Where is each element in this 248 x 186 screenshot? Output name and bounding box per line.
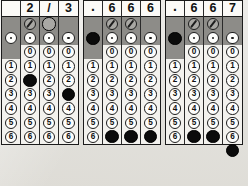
grid-1-column-1-digit-6-cell[interactable]: 6 bbox=[2, 130, 20, 144]
grid-2-column-4-digit-6-bubble[interactable]: 6 bbox=[144, 130, 157, 143]
grid-1-column-2-digit-6-cell[interactable]: 6 bbox=[21, 130, 39, 144]
grid-1-column-2-digit-3-cell[interactable]: 3 bbox=[21, 87, 39, 101]
grid-2-column-1-digit-3-bubble[interactable]: 3 bbox=[87, 88, 99, 100]
grid-1-column-4-digit-1-bubble[interactable]: 1 bbox=[62, 60, 74, 72]
grid-1-column-3-digit-2-bubble[interactable]: 2 bbox=[43, 74, 55, 86]
grid-1-column-2-digit-6-bubble[interactable]: 6 bbox=[24, 131, 36, 143]
grid-1-column-3-digit-1-cell[interactable]: 1 bbox=[40, 59, 58, 73]
grid-3-column-2-digit-0-cell[interactable]: 0 bbox=[185, 45, 203, 59]
grid-1-column-2-digit-4-bubble[interactable]: 4 bbox=[24, 102, 36, 114]
grid-1-column-2-digit-5-cell[interactable]: 5 bbox=[21, 116, 39, 130]
grid-3-column-4-digit-2-bubble[interactable]: 2 bbox=[226, 74, 238, 86]
grid-3-column-4-digit-3-cell[interactable]: 3 bbox=[223, 87, 242, 101]
grid-1-column-2-decimal-bubble[interactable] bbox=[24, 32, 36, 44]
grid-2-column-4-digit-1-cell[interactable]: 1 bbox=[141, 59, 160, 73]
grid-3-column-1-digit-5-cell[interactable]: 5 bbox=[166, 116, 184, 130]
grid-1-column-2-digit-4-cell[interactable]: 4 bbox=[21, 102, 39, 116]
grid-2-column-1-digit-1-bubble[interactable]: 1 bbox=[87, 60, 99, 72]
grid-3-column-4-digit-5-bubble[interactable]: 5 bbox=[226, 117, 238, 129]
grid-3-column-1-digit-4-bubble[interactable]: 4 bbox=[169, 102, 181, 114]
grid-1-column-3-slash-cell[interactable] bbox=[40, 17, 58, 31]
grid-1-column-3-digit-1-bubble[interactable]: 1 bbox=[43, 60, 55, 72]
grid-3-column-2-slash-cell[interactable] bbox=[185, 17, 203, 31]
grid-2-column-2-digit-6-bubble[interactable]: 6 bbox=[105, 130, 118, 143]
grid-2-column-4-digit-3-bubble[interactable]: 3 bbox=[144, 88, 156, 100]
grid-2-column-3-digit-2-bubble[interactable]: 2 bbox=[125, 74, 137, 86]
grid-3-column-4-digit-2-cell[interactable]: 2 bbox=[223, 73, 242, 87]
grid-2-column-4-digit-0-bubble[interactable]: 0 bbox=[144, 46, 156, 58]
grid-2-column-4-digit-6-cell[interactable]: 6 bbox=[141, 130, 160, 144]
grid-3-column-1-digit-4-cell[interactable]: 4 bbox=[166, 102, 184, 116]
grid-1-column-1-digit-3-bubble[interactable]: 3 bbox=[5, 88, 17, 100]
grid-1-column-1-digit-5-cell[interactable]: 5 bbox=[2, 116, 20, 130]
grid-3-column-4-written-answer[interactable]: 7 bbox=[223, 1, 242, 17]
grid-2-column-4-digit-3-cell[interactable]: 3 bbox=[141, 87, 160, 101]
grid-2-column-4-digit-4-bubble[interactable]: 4 bbox=[144, 102, 156, 114]
grid-2-column-3-decimal-bubble[interactable] bbox=[125, 32, 137, 44]
grid-2-column-1-digit-3-cell[interactable]: 3 bbox=[84, 87, 102, 101]
grid-3-column-2-slash-bubble[interactable] bbox=[188, 18, 200, 30]
grid-1-column-1-digit-6-bubble[interactable]: 6 bbox=[5, 131, 17, 143]
grid-3-column-2-written-answer[interactable]: 6 bbox=[185, 1, 203, 17]
grid-3-column-2-digit-4-cell[interactable]: 4 bbox=[185, 102, 203, 116]
grid-1-column-4-digit-3-cell[interactable]: 3 bbox=[59, 87, 78, 101]
grid-2-column-1-decimal-bubble[interactable] bbox=[86, 32, 99, 45]
grid-3-column-2-digit-6-bubble[interactable]: 6 bbox=[187, 130, 200, 143]
grid-2-column-1-decimal-cell[interactable] bbox=[84, 31, 102, 45]
grid-3-column-4-digit-3-bubble[interactable]: 3 bbox=[226, 88, 238, 100]
grid-2-column-4-decimal-bubble[interactable] bbox=[144, 32, 156, 44]
grid-1-column-3-decimal-cell[interactable] bbox=[40, 31, 58, 45]
grid-1-column-3-digit-4-bubble[interactable]: 4 bbox=[43, 102, 55, 114]
grid-3-column-2-decimal-cell[interactable] bbox=[185, 31, 203, 45]
grid-2-column-3-written-answer[interactable]: 6 bbox=[122, 1, 140, 17]
grid-1-column-1-digit-3-cell[interactable]: 3 bbox=[2, 87, 20, 101]
grid-1-column-4-digit-5-bubble[interactable]: 5 bbox=[62, 117, 74, 129]
grid-2-column-3-digit-6-bubble[interactable]: 6 bbox=[124, 130, 137, 143]
grid-2-column-3-digit-5-cell[interactable]: 5 bbox=[122, 116, 140, 130]
grid-2-column-3-digit-0-bubble[interactable]: 0 bbox=[125, 46, 137, 58]
grid-1-column-3-slash-bubble[interactable] bbox=[42, 17, 55, 30]
grid-2-column-1-digit-1-cell[interactable]: 1 bbox=[84, 59, 102, 73]
grid-1-column-2-slash-cell[interactable] bbox=[21, 17, 39, 31]
grid-1-column-2-digit-5-bubble[interactable]: 5 bbox=[24, 117, 36, 129]
grid-1-column-1-digit-4-bubble[interactable]: 4 bbox=[5, 102, 17, 114]
grid-2-column-2-written-answer[interactable]: 6 bbox=[103, 1, 121, 17]
grid-1-column-4-digit-5-cell[interactable]: 5 bbox=[59, 116, 78, 130]
grid-3-column-3-digit-3-bubble[interactable]: 3 bbox=[207, 88, 219, 100]
grid-2-column-4-digit-4-cell[interactable]: 4 bbox=[141, 102, 160, 116]
grid-2-column-4-digit-0-cell[interactable]: 0 bbox=[141, 45, 160, 59]
grid-1-column-3-digit-2-cell[interactable]: 2 bbox=[40, 73, 58, 87]
grid-2-column-2-digit-2-bubble[interactable]: 2 bbox=[106, 74, 118, 86]
grid-3-column-2-digit-3-bubble[interactable]: 3 bbox=[188, 88, 200, 100]
grid-3-column-4-overhang-cell[interactable] bbox=[223, 144, 242, 158]
grid-3-column-3-digit-2-cell[interactable]: 2 bbox=[204, 73, 222, 87]
grid-3-column-4-digit-0-cell[interactable]: 0 bbox=[223, 45, 242, 59]
grid-3-column-3-digit-5-cell[interactable]: 5 bbox=[204, 116, 222, 130]
grid-3-column-2-digit-5-bubble[interactable]: 5 bbox=[188, 117, 200, 129]
grid-3-column-2-decimal-bubble[interactable] bbox=[188, 32, 200, 44]
grid-2-column-1-digit-4-bubble[interactable]: 4 bbox=[87, 102, 99, 114]
grid-1-column-1-digit-5-bubble[interactable]: 5 bbox=[5, 117, 17, 129]
grid-3-column-4-decimal-bubble[interactable] bbox=[226, 32, 238, 44]
grid-3-column-2-digit-1-cell[interactable]: 1 bbox=[185, 59, 203, 73]
grid-3-column-1-written-answer[interactable]: . bbox=[166, 1, 184, 17]
grid-2-column-2-digit-2-cell[interactable]: 2 bbox=[103, 73, 121, 87]
grid-2-column-3-digit-4-bubble[interactable]: 4 bbox=[125, 102, 137, 114]
grid-3-column-1-digit-2-cell[interactable]: 2 bbox=[166, 73, 184, 87]
grid-1-column-4-digit-1-cell[interactable]: 1 bbox=[59, 59, 78, 73]
grid-3-column-4-digit-4-cell[interactable]: 4 bbox=[223, 102, 242, 116]
grid-3-column-3-slash-cell[interactable] bbox=[204, 17, 222, 31]
grid-3-column-3-digit-0-bubble[interactable]: 0 bbox=[207, 46, 219, 58]
grid-1-column-4-digit-6-cell[interactable]: 6 bbox=[59, 130, 78, 144]
grid-2-column-3-digit-3-cell[interactable]: 3 bbox=[122, 87, 140, 101]
grid-3-column-3-written-answer[interactable]: 6 bbox=[204, 1, 222, 17]
grid-3-column-3-digit-4-bubble[interactable]: 4 bbox=[207, 102, 219, 114]
grid-2-column-4-digit-5-cell[interactable]: 5 bbox=[141, 116, 160, 130]
grid-2-column-1-written-answer[interactable]: . bbox=[84, 1, 102, 17]
grid-3-column-4-digit-1-bubble[interactable]: 1 bbox=[226, 60, 238, 72]
grid-3-column-1-digit-5-bubble[interactable]: 5 bbox=[169, 117, 181, 129]
grid-3-column-3-digit-1-bubble[interactable]: 1 bbox=[207, 60, 219, 72]
grid-3-column-3-digit-2-bubble[interactable]: 2 bbox=[207, 74, 219, 86]
grid-3-column-3-slash-bubble[interactable] bbox=[207, 18, 219, 30]
grid-2-column-1-digit-2-cell[interactable]: 2 bbox=[84, 73, 102, 87]
